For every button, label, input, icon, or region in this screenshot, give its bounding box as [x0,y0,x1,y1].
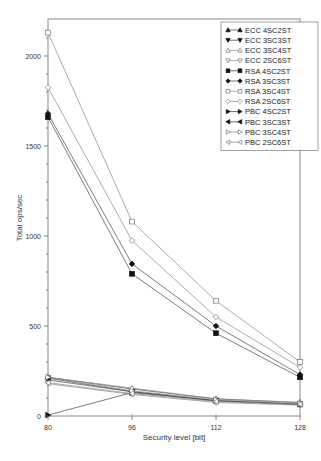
x-tick-label: 80 [44,424,52,431]
x-tick-label: 112 [210,424,221,431]
x-tick-label: 96 [128,424,136,431]
legend-label: PBC 3SC3ST [245,118,291,127]
legend-label: RSA 2SC6ST [245,97,291,106]
y-tick-label: 2000 [25,53,41,60]
legend-label: ECC 3SC4ST [245,46,292,55]
legend-label: RSA 4SC2ST [245,67,291,76]
series-ecc-3sc4st [45,375,303,405]
x-tick-label: 128 [294,424,306,431]
data-point-marker [238,69,242,73]
data-point-marker [298,360,303,365]
data-point-marker [213,323,219,329]
legend-label: PBC 3SC4ST [245,128,291,137]
data-point-marker [45,85,51,91]
y-tick-label: 1000 [25,233,41,240]
line-chart: 05001000150020008096112128 Security leve… [0,0,321,461]
data-point-marker [214,298,219,303]
legend-label: RSA 3SC3ST [245,77,291,86]
data-point-marker [297,365,303,371]
series-ecc-2sc6st [45,381,303,408]
data-point-marker [214,331,219,336]
data-point-marker [238,89,242,93]
y-tick-label: 500 [29,323,41,330]
data-point-marker [129,261,135,267]
y-tick-label: 0 [37,413,41,420]
series-rsa-4sc2st [46,115,303,380]
series-pbc-3sc4st [46,375,303,407]
data-point-marker [130,271,135,276]
legend-label: RSA 3SC4ST [245,87,291,96]
y-axis-label: Total ops/sec [15,195,24,242]
data-point-marker [226,89,230,93]
data-point-marker [46,30,51,35]
legend-label: ECC 4SC2ST [245,26,292,35]
data-point-marker [226,69,230,73]
legend-label: ECC 3SC3ST [245,36,292,45]
series-pbc-3sc3st [45,375,302,407]
legend-label: ECC 2SC6ST [245,56,292,65]
y-tick-label: 1500 [25,143,41,150]
legend: ECC 4SC2STECC 3SC3STECC 3SC4STECC 2SC6ST… [221,22,318,150]
legend-label: PBC 2SC6ST [245,138,291,147]
series-ecc-4sc2st [45,375,303,405]
legend-label: PBC 4SC2ST [245,107,291,116]
x-axis-label: Security level [bit] [143,433,206,442]
data-point-marker [130,219,135,224]
